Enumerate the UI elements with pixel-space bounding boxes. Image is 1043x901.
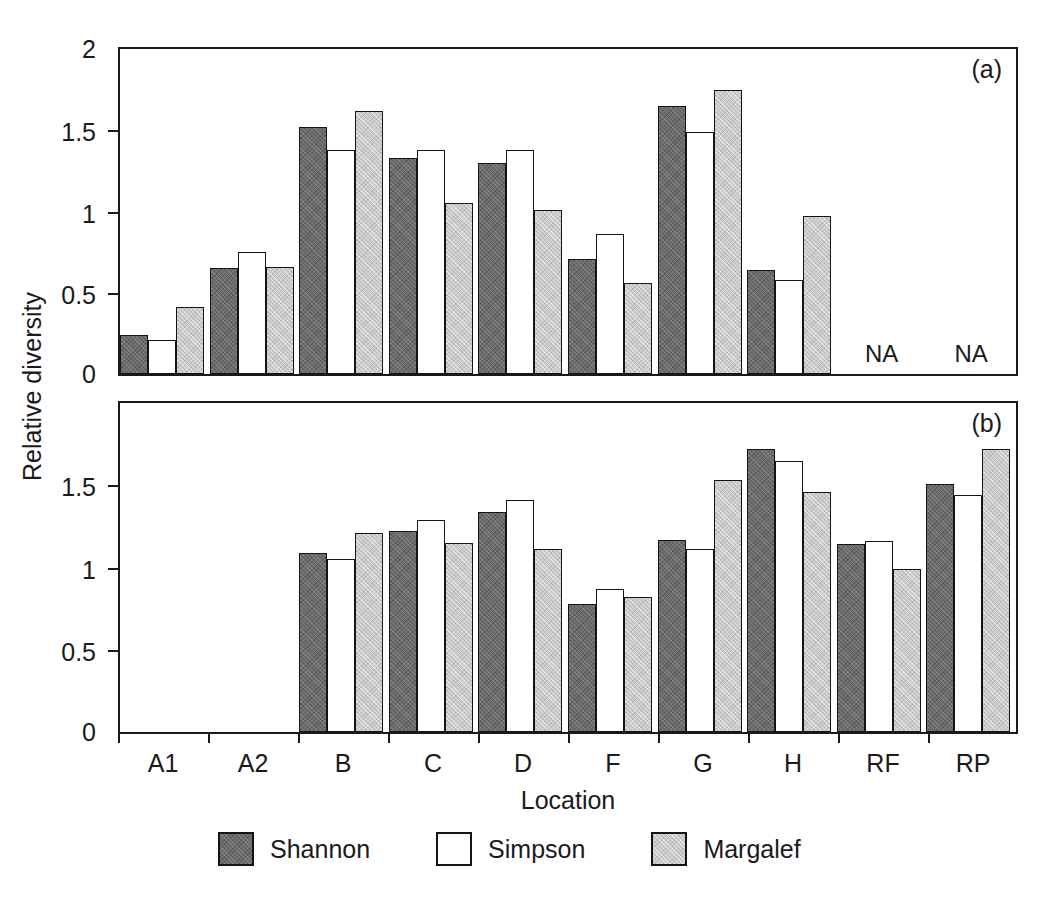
bar-group-b xyxy=(299,403,389,732)
legend-swatch-simpson xyxy=(436,832,472,866)
y-tick-label: 1.5 xyxy=(61,473,108,502)
bar-a2-shannon xyxy=(210,268,238,374)
x-tick-rf: RF xyxy=(838,734,928,780)
y-tick-0-3: 1.5 xyxy=(108,130,120,132)
bar-h-margalef xyxy=(803,216,831,374)
x-tick-b: B xyxy=(298,734,388,780)
bar-c-margalef xyxy=(445,203,473,374)
bar-h-shannon xyxy=(747,449,775,732)
legend-item-margalef: Margalef xyxy=(651,832,800,866)
legend-swatch-shannon xyxy=(218,832,254,866)
bar-group-d xyxy=(478,403,568,732)
bar-h-margalef xyxy=(803,492,831,732)
bar-group-c xyxy=(389,49,479,374)
bar-f-shannon xyxy=(568,604,596,732)
bar-group-rp: NA xyxy=(926,49,1016,374)
bar-rf-simpson xyxy=(865,541,893,732)
bar-c-simpson xyxy=(417,150,445,374)
bar-b-simpson xyxy=(327,150,355,374)
bar-a1-margalef xyxy=(176,307,204,374)
bar-b-margalef xyxy=(355,533,383,732)
bar-d-margalef xyxy=(534,549,562,732)
x-tick-label: B xyxy=(335,749,352,778)
bar-group-a2 xyxy=(210,403,300,732)
x-axis-title: Location xyxy=(118,786,1018,815)
x-tick-mark xyxy=(658,734,660,743)
bar-group-f xyxy=(568,49,658,374)
bar-d-shannon xyxy=(478,163,506,374)
bar-rp-simpson xyxy=(954,495,982,732)
y-tick-label: 1.5 xyxy=(61,118,108,147)
legend-item-shannon: Shannon xyxy=(218,832,370,866)
bar-group-f xyxy=(568,403,658,732)
bar-group-rp xyxy=(926,403,1016,732)
x-tick-label: A2 xyxy=(238,749,269,778)
x-tick-mark xyxy=(208,734,210,743)
y-tick-label: 0.5 xyxy=(61,280,108,309)
bar-group-a1 xyxy=(120,403,210,732)
x-tick-label: H xyxy=(784,749,802,778)
bar-b-margalef xyxy=(355,111,383,374)
na-annotation-rp: NA xyxy=(954,340,987,368)
y-tick-label: 2 xyxy=(82,35,108,64)
bar-group-g xyxy=(658,49,748,374)
x-tick-h: H xyxy=(748,734,838,780)
bar-g-margalef xyxy=(714,90,742,374)
bar-d-simpson xyxy=(506,500,534,732)
bar-c-shannon xyxy=(389,531,417,732)
bar-h-shannon xyxy=(747,270,775,374)
bar-rf-shannon xyxy=(837,544,865,732)
x-tick-label: RP xyxy=(956,749,991,778)
x-tick-a1: A1 xyxy=(118,734,208,780)
bar-a1-shannon xyxy=(120,335,148,374)
bar-f-margalef xyxy=(624,283,652,374)
x-tick-a2: A2 xyxy=(208,734,298,780)
bar-group-g xyxy=(658,403,748,732)
bar-d-simpson xyxy=(506,150,534,374)
x-axis-ticks: A1A2BCDFGHRFRP xyxy=(118,734,1018,780)
figure-bar-chart-relative-diversity: Relative diversity (a) NANA 00.511.52 (b… xyxy=(0,0,1043,901)
panel-b-bar-groups xyxy=(120,403,1016,732)
bar-group-c xyxy=(389,403,479,732)
bar-f-simpson xyxy=(596,234,624,374)
bar-c-shannon xyxy=(389,158,417,374)
x-tick-mark xyxy=(838,734,840,743)
x-tick-label: A1 xyxy=(148,749,179,778)
bar-c-margalef xyxy=(445,543,473,732)
x-tick-g: G xyxy=(658,734,748,780)
legend-item-simpson: Simpson xyxy=(436,832,585,866)
legend-swatch-margalef xyxy=(651,832,687,866)
bar-group-b xyxy=(299,49,389,374)
bar-group-h xyxy=(747,403,837,732)
bar-g-shannon xyxy=(658,106,686,374)
x-tick-label: G xyxy=(693,749,712,778)
y-tick-label: 0 xyxy=(82,718,108,747)
panel-a-bar-groups: NANA xyxy=(120,49,1016,374)
y-tick-label: 0 xyxy=(82,360,108,389)
y-tick-0-1: 0.5 xyxy=(108,293,120,295)
x-tick-mark xyxy=(478,734,480,743)
bar-b-shannon xyxy=(299,127,327,374)
bar-b-simpson xyxy=(327,559,355,732)
bar-b-shannon xyxy=(299,553,327,732)
x-tick-mark xyxy=(388,734,390,743)
bar-f-margalef xyxy=(624,597,652,732)
bar-group-d xyxy=(478,49,568,374)
y-tick-1-1: 0.5 xyxy=(108,650,120,652)
legend-label-margalef: Margalef xyxy=(703,835,800,864)
bar-c-simpson xyxy=(417,520,445,732)
bar-a1-simpson xyxy=(148,340,176,374)
x-tick-mark xyxy=(298,734,300,743)
x-tick-label: RF xyxy=(866,749,899,778)
y-tick-label: 1 xyxy=(82,199,108,228)
y-tick-label: 0.5 xyxy=(61,637,108,666)
bar-h-simpson xyxy=(775,461,803,732)
bar-group-h xyxy=(747,49,837,374)
bar-d-margalef xyxy=(534,210,562,374)
bar-g-simpson xyxy=(686,549,714,732)
bar-rp-margalef xyxy=(982,449,1010,732)
bar-g-shannon xyxy=(658,540,686,732)
bar-h-simpson xyxy=(775,280,803,374)
x-tick-label: C xyxy=(424,749,442,778)
y-tick-label: 1 xyxy=(82,555,108,584)
